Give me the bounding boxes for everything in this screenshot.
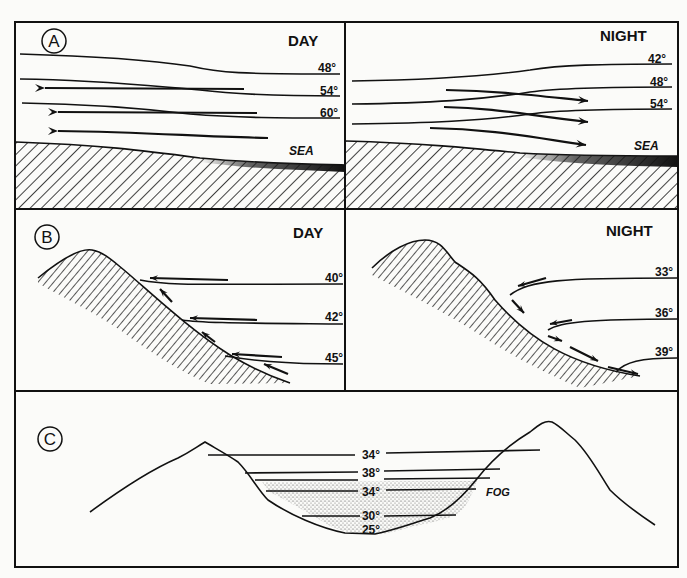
fog-label: FOG (486, 486, 510, 498)
panel-a-letter: A (48, 32, 60, 51)
temp-label: 42° (648, 52, 666, 66)
temp-label: 54° (320, 84, 338, 98)
flow-arrow-day (232, 354, 282, 357)
flow-arrow-night (512, 300, 524, 313)
isotherm-38-lower (384, 478, 490, 479)
flow-arrow-day (264, 364, 288, 374)
isotherm-48-day (20, 54, 340, 74)
temp-label: 30° (362, 509, 380, 523)
temp-label: 36° (655, 306, 673, 320)
isotherm-40-day (140, 280, 343, 284)
isotherm-42-day (182, 320, 343, 324)
sea-label: SEA (634, 139, 659, 153)
temp-label: 34° (362, 485, 380, 499)
panel-a: A DAY NIGHT 48° 54° 60° SEA 42° 48° 54° … (16, 27, 678, 208)
sea-label: SEA (289, 144, 314, 158)
temp-label: 38° (362, 466, 380, 480)
temp-label: 60° (320, 106, 338, 120)
isotherm-38 (245, 472, 358, 473)
flow-arrow-day (160, 289, 172, 302)
panel-b-day-title: DAY (293, 224, 323, 241)
temp-label: 54° (650, 97, 668, 111)
panel-b-night-title: NIGHT (606, 222, 653, 239)
temp-label: 34° (362, 448, 380, 462)
panel-b-letter: B (41, 228, 52, 247)
temp-label: 25° (362, 523, 380, 537)
flow-arrow-day-3 (58, 131, 268, 138)
temp-label: 40° (325, 271, 343, 285)
isotherm-60-day (22, 103, 340, 118)
flow-arrow-night-3 (430, 128, 586, 145)
temp-label: 33° (655, 265, 673, 279)
flow-arrow-day-1 (45, 88, 244, 89)
panel-a-night-ground (346, 141, 678, 208)
panel-a-night-title: NIGHT (600, 27, 647, 44)
panel-b: B DAY NIGHT 40° 42° 45° 33° 36° 39° (35, 222, 677, 388)
temp-label: 48° (650, 75, 668, 89)
valley-wind-diagram: A DAY NIGHT 48° 54° 60° SEA 42° 48° 54° … (0, 0, 687, 578)
isotherm-30 (384, 515, 456, 516)
isotherm-34-fog (386, 489, 476, 490)
flow-arrow-day-2 (58, 112, 257, 113)
temp-label: 48° (318, 61, 336, 75)
panel-a-day-title: DAY (288, 32, 318, 49)
panel-b-day-mountain (38, 250, 290, 384)
panel-c-letter: C (44, 430, 56, 449)
flow-arrow-day (150, 278, 228, 280)
panel-c: C 34° 38° 34° 30° 25° FOG (38, 421, 655, 537)
panel-b-night-mountain (372, 240, 640, 388)
isotherm-42-night (352, 64, 672, 81)
isotherm-34-upper (386, 450, 540, 453)
isotherm-48-night (352, 87, 672, 104)
temp-label: 42° (325, 310, 343, 324)
flow-arrow-night (548, 336, 562, 341)
flow-arrow-day (190, 318, 257, 320)
temp-label: 39° (655, 345, 673, 359)
isotherm-38 (384, 469, 500, 471)
temp-label: 45° (325, 351, 343, 365)
